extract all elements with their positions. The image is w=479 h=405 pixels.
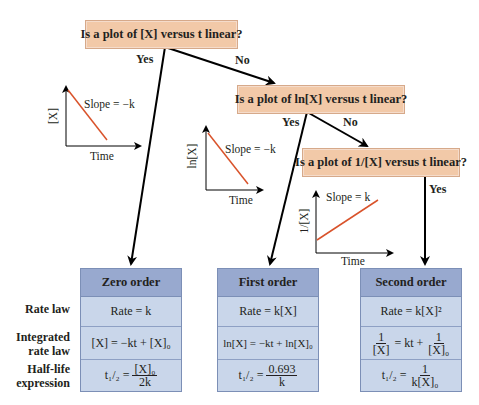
integrated-rate-law-cell: [X] = −kt + [X]₀ bbox=[81, 327, 181, 360]
question-text: Is a plot of ln[X] versus t linear? bbox=[235, 92, 408, 107]
question-text: Is a plot of [X] versus t linear? bbox=[80, 27, 242, 42]
table-first-order: First order Rate = k[X] ln[X] = −kt + ln… bbox=[217, 268, 319, 392]
table-zero-order: Zero order Rate = k [X] = −kt + [X]₀ t₁/… bbox=[80, 268, 182, 392]
arrow-q1-no bbox=[165, 47, 274, 83]
row-labels: Rate law Integrated rate law Half-life e… bbox=[0, 295, 70, 395]
plot-first-y-label: ln[X] bbox=[186, 144, 198, 169]
plot-zero-x-label: Time bbox=[90, 150, 114, 162]
rate-law-cell: Rate = k[X]² bbox=[361, 297, 461, 327]
rate-law-cell: Rate = k[X] bbox=[218, 297, 318, 327]
branch-label-q2-yes: Yes bbox=[282, 115, 299, 130]
question-box-linear-x: Is a plot of [X] versus t linear? bbox=[85, 20, 238, 49]
table-header: First order bbox=[218, 269, 318, 297]
table-header: Second order bbox=[361, 269, 461, 297]
integrated-rate-law-cell: ln[X] = −kt + ln[X]₀ bbox=[218, 327, 318, 360]
table-header: Zero order bbox=[81, 269, 181, 297]
plot-first-x-label: Time bbox=[229, 194, 253, 206]
plot-zero-y-label: [X] bbox=[47, 108, 59, 124]
question-box-linear-lnx: Is a plot of ln[X] versus t linear? bbox=[237, 85, 405, 114]
half-life-cell: t₁/₂ = 0.693k bbox=[218, 360, 318, 391]
branch-label-q1-yes: Yes bbox=[136, 52, 153, 67]
arrow-q1-yes bbox=[131, 47, 165, 264]
arrow-q2-no bbox=[307, 112, 367, 146]
branch-label-q3-yes: Yes bbox=[429, 182, 446, 197]
branch-label-q2-no: No bbox=[343, 115, 358, 130]
plot-second-slope: Slope = k bbox=[326, 191, 370, 203]
arrow-q2-yes bbox=[270, 112, 307, 264]
plot-zero-slope: Slope = −k bbox=[84, 98, 135, 110]
integrated-rate-law-cell: 1[X] = kt + 1[X]₀ bbox=[361, 327, 461, 360]
plot-second-y-label: 1/[X] bbox=[298, 209, 310, 234]
half-life-cell: t₁/₂ = [X]₀2k bbox=[81, 360, 181, 391]
half-life-cell: t₁/₂ = 1k[X]₀ bbox=[361, 360, 461, 391]
plot-first-slope: Slope = −k bbox=[225, 143, 276, 155]
table-second-order: Second order Rate = k[X]² 1[X] = kt + 1[… bbox=[360, 268, 462, 392]
row-label-rate-law: Rate law bbox=[0, 302, 70, 316]
row-label-integrated-rate-law: Integrated rate law bbox=[0, 330, 70, 358]
question-box-linear-inverse-x: Is a plot of 1/[X] versus t linear? bbox=[302, 148, 460, 177]
rate-law-cell: Rate = k bbox=[81, 297, 181, 327]
plot-second-x-label: Time bbox=[341, 255, 365, 267]
branch-label-q1-no: No bbox=[235, 53, 250, 68]
question-text: Is a plot of 1/[X] versus t linear? bbox=[295, 155, 467, 170]
row-label-half-life: Half-life expression bbox=[0, 362, 70, 390]
